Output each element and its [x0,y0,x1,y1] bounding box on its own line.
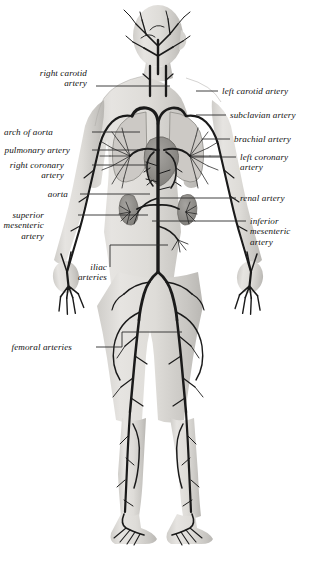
label-renal-artery: renal artery [240,193,285,203]
label-left-carotid-artery: left carotid artery [222,86,288,96]
label-pulmonary-artery: pulmonary artery [4,145,70,155]
label-femoral-arteries: femoral arteries [12,342,72,352]
label-arch-of-aorta: arch of aorta [4,127,53,137]
label-brachial-artery: brachial artery [234,134,291,144]
label-inferior-mesenteric-artery: inferior mesenteric artery [250,216,290,247]
label-right-coronary-artery: right coronary artery [10,160,64,181]
label-right-carotid-artery: right carotid artery [40,68,87,89]
label-left-coronary-artery: left coronary artery [240,152,288,173]
label-superior-mesenteric-artery: superior mesenteric artery [4,210,44,241]
label-iliac-arteries: iliac arteries [78,262,107,283]
label-aorta: aorta [48,189,68,199]
label-subclavian-artery: subclavian artery [230,110,296,120]
